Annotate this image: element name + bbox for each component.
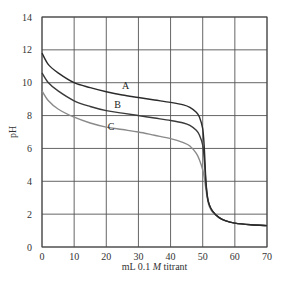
x-tick-label: 60 <box>230 251 240 262</box>
x-tick-label: 0 <box>40 251 45 262</box>
y-tick-label: 6 <box>27 143 32 154</box>
y-tick-label: 14 <box>22 12 32 23</box>
y-axis-label: pH <box>7 126 18 138</box>
curve-labels: CBA <box>108 80 130 131</box>
x-tick-label: 50 <box>198 251 208 262</box>
x-tick-label: 70 <box>262 251 272 262</box>
grid-lines <box>42 17 267 247</box>
y-tick-label: 0 <box>27 242 32 253</box>
y-tick-label: 8 <box>27 110 32 121</box>
curve-label-a: A <box>122 80 130 91</box>
titration-curves <box>42 53 267 226</box>
curve-c <box>42 91 267 226</box>
titration-chart: 02468101214 010203040506070 CBA pH mL 0.… <box>0 0 287 287</box>
x-axis-label-post: titrant <box>161 261 188 272</box>
y-tick-label: 2 <box>27 209 32 220</box>
curve-label-c: C <box>108 121 115 132</box>
curve-a <box>42 53 267 226</box>
plot-frame <box>42 17 267 247</box>
y-tick-label: 10 <box>22 77 32 88</box>
y-tick-label: 12 <box>22 44 32 55</box>
curve-b <box>42 73 267 226</box>
y-axis-ticks: 02468101214 <box>22 12 32 253</box>
curve-label-b: B <box>114 99 121 110</box>
x-tick-label: 20 <box>101 251 111 262</box>
x-axis-label-pre: mL 0.1 <box>122 261 153 272</box>
x-tick-label: 10 <box>69 251 79 262</box>
x-axis-label: mL 0.1 M titrant <box>122 261 188 272</box>
y-tick-label: 4 <box>27 176 32 187</box>
